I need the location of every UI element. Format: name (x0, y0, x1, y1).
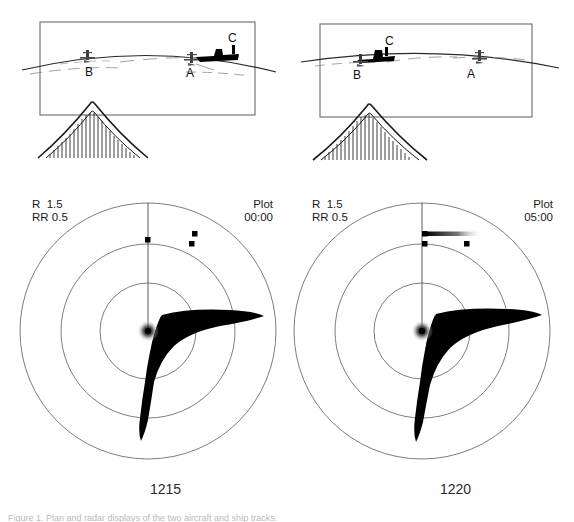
ridge-profile-left (38, 102, 148, 158)
sea-texture-right-1 (387, 57, 457, 62)
plot-time: 05:00 (524, 211, 553, 223)
plot-time: 00:00 (244, 211, 273, 223)
sea-texture-right-2 (315, 62, 383, 66)
plot-label: Plot (253, 198, 273, 210)
radar-range-readout-right: R 1.5RR 0.5 (312, 198, 348, 224)
horizon-arc-right (301, 53, 559, 68)
plot-label: Plot (533, 198, 553, 210)
blip-marker[interactable] (192, 231, 198, 237)
range-rate-label: RR (32, 211, 49, 223)
blip-trail (427, 232, 483, 237)
figure-radar-comparison: B A C (0, 0, 574, 522)
range-rate-value: 0.5 (332, 211, 348, 223)
scene-label-c-right: C (385, 34, 394, 48)
scene-label-a-left: A (186, 66, 194, 80)
radar-range-readout-left: R 1.5RR 0.5 (32, 198, 68, 224)
radar-display-right[interactable]: R 1.5RR 0.5 Plot05:00 (294, 190, 569, 470)
radar-display-left[interactable]: R 1.5RR 0.5 Plot00:00 (14, 190, 289, 470)
blip-marker[interactable] (464, 241, 470, 247)
scene-label-a-right: A (467, 67, 475, 81)
sea-texture-left-3 (186, 72, 250, 76)
scene-label-b-right: B (353, 68, 361, 82)
ridge-profile-right (313, 104, 427, 160)
sea-texture-left-1 (30, 68, 120, 74)
scene-label-c-left: C (228, 31, 237, 45)
blip-marker[interactable] (145, 237, 151, 243)
panel-time-label-right: 1220 (440, 481, 471, 497)
scene-label-b-left: B (85, 65, 93, 79)
range-label: R (32, 198, 40, 210)
radar-origin-right (419, 328, 426, 335)
figure-caption: Figure 1. Plan and radar displays of the… (8, 513, 568, 522)
radar-plot-readout-right: Plot05:00 (524, 198, 553, 224)
range-value: 1.5 (327, 198, 343, 210)
panel-time-label-left: 1215 (150, 481, 181, 497)
radar-origin-left (145, 328, 152, 335)
ship-icon-c-left (196, 45, 239, 62)
blip-marker[interactable] (422, 231, 428, 237)
scene-panel-left: B A C (0, 0, 287, 180)
radar-plot-readout-left: Plot00:00 (244, 198, 273, 224)
blip-marker[interactable] (189, 241, 195, 247)
blip-marker[interactable] (422, 241, 428, 247)
scene-panel-right: C B A (287, 0, 574, 180)
scene-frame-right (320, 24, 532, 117)
range-rate-label: RR (312, 211, 329, 223)
range-label: R (312, 198, 320, 210)
range-rate-value: 0.5 (52, 211, 68, 223)
range-value: 1.5 (47, 198, 63, 210)
